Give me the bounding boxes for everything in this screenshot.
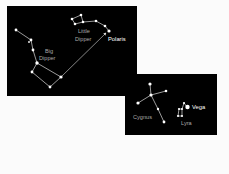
summer-sky-panel: Cygnus Lyra Vega — [125, 74, 217, 135]
northern-sky-panel: Big Dipper Little Dipper Polaris — [7, 6, 137, 96]
star — [74, 23, 77, 26]
little-dipper-label-line1: Little — [78, 28, 90, 34]
big-dipper-label-line2: Dipper — [39, 55, 56, 61]
star — [32, 49, 35, 52]
star — [136, 101, 139, 104]
vega-label: Vega — [192, 104, 206, 110]
constellation-diagram: Big Dipper Little Dipper Polaris — [0, 0, 229, 174]
star — [35, 61, 38, 64]
star — [71, 18, 74, 21]
star — [148, 82, 151, 85]
star — [82, 21, 85, 24]
star — [165, 90, 168, 93]
star — [104, 25, 107, 28]
star — [181, 108, 183, 110]
star — [183, 102, 185, 104]
star — [163, 121, 166, 124]
star — [181, 115, 183, 117]
polaris-star — [107, 29, 110, 32]
star — [30, 39, 33, 42]
star — [177, 115, 179, 117]
star — [31, 71, 34, 74]
little-dipper-label-line2: Dipper — [75, 36, 92, 42]
vega-star — [185, 105, 189, 109]
cygnus-label: Cygnus — [133, 114, 152, 120]
star — [157, 108, 159, 110]
star — [49, 86, 52, 89]
star — [15, 29, 18, 32]
lyra-label: Lyra — [181, 120, 193, 126]
big-dipper-label-line1: Big — [45, 48, 53, 54]
star — [95, 20, 98, 23]
star — [149, 93, 152, 96]
star — [28, 41, 30, 43]
polaris-label: Polaris — [108, 36, 126, 42]
star — [80, 14, 83, 17]
star — [178, 108, 180, 110]
